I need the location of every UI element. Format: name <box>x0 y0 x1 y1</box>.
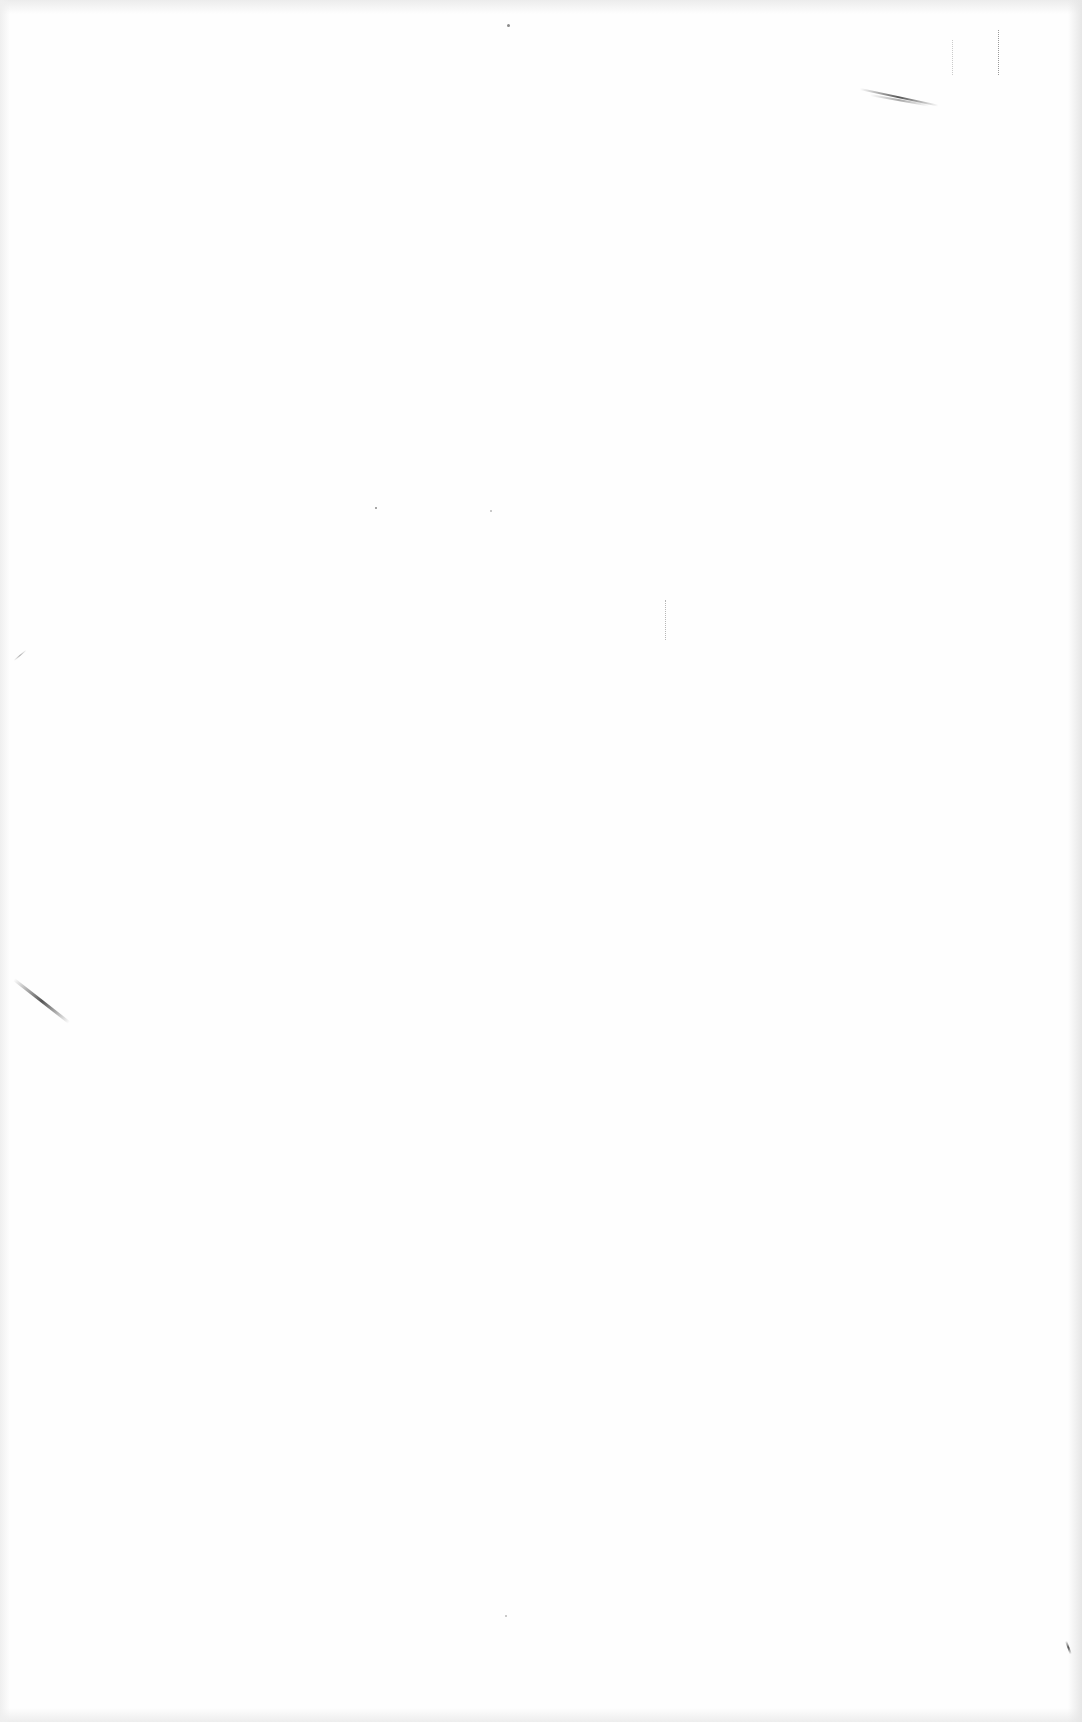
scan-artifact-dots <box>665 600 667 640</box>
scan-artifact-dots <box>952 40 954 75</box>
dust-speck <box>505 1615 507 1617</box>
scan-artifact-streak <box>14 650 27 661</box>
scan-edge-top <box>0 0 1082 14</box>
dust-speck <box>375 507 377 509</box>
dust-speck <box>490 510 492 512</box>
scan-artifact-dots <box>998 30 1000 75</box>
dust-speck <box>507 24 510 27</box>
scan-edge-right <box>1068 0 1082 1722</box>
scan-artifact-streak <box>13 978 70 1023</box>
blank-page <box>0 0 1082 1722</box>
scan-edge-bottom <box>0 1708 1082 1722</box>
scan-edge-left <box>0 0 10 1722</box>
